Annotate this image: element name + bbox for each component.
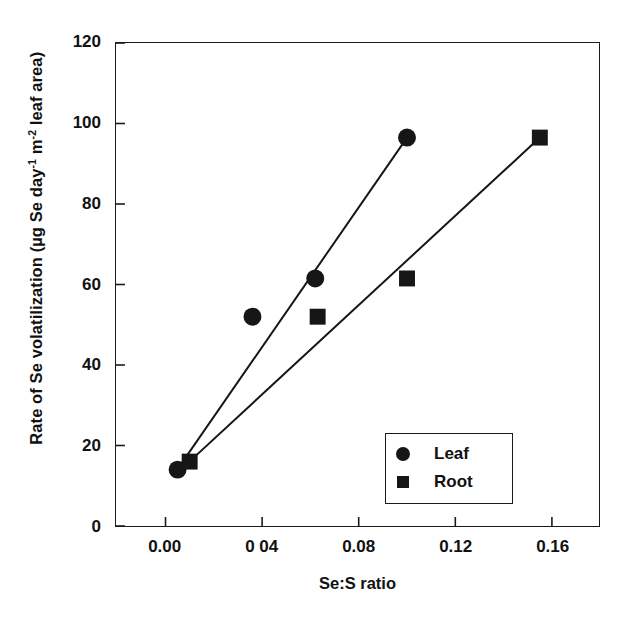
x-axis-tick-label: 0.16: [508, 537, 598, 557]
y-axis-tick-label: 120: [41, 32, 101, 52]
legend-square-marker-icon: [386, 476, 420, 488]
y-axis-title-sup-2: -2: [26, 130, 38, 140]
y-axis-tick-label: 20: [41, 436, 101, 456]
data-point-root: [399, 270, 415, 286]
x-axis-title: Se:S ratio: [115, 574, 600, 593]
y-axis-tick-labels: 020406080100120: [39, 0, 101, 626]
data-point-root: [182, 454, 198, 470]
x-axis-tick-label: 0.08: [314, 537, 404, 557]
data-point-root: [310, 309, 326, 325]
y-axis-tick-label: 100: [41, 113, 101, 133]
plot-area: [115, 42, 600, 527]
trend-line-leaf: [180, 138, 407, 466]
data-point-leaf: [306, 269, 324, 287]
data-point-leaf: [398, 129, 416, 147]
data-point-root: [532, 130, 548, 146]
y-axis-tick-label: 60: [41, 275, 101, 295]
y-axis-title-sup-1: -1: [26, 159, 38, 169]
y-axis-tick-label: 0: [41, 517, 101, 537]
legend-label-root: Root: [420, 472, 473, 492]
legend-item-leaf: Leaf: [386, 440, 514, 468]
x-axis-tick-label: 0.00: [120, 537, 210, 557]
data-point-leaf: [243, 308, 261, 326]
legend-item-root: Root: [386, 468, 514, 496]
legend-label-leaf: Leaf: [420, 444, 469, 464]
y-axis-tick-label: 80: [41, 194, 101, 214]
trend-line-root: [187, 138, 540, 464]
figure-scatter-se-volatilization: Rate of Se volatilization (µg Se day-1 m…: [0, 0, 629, 626]
legend-circle-marker-icon: [386, 447, 420, 461]
y-axis-tick-label: 40: [41, 355, 101, 375]
x-axis-tick-label: 0.12: [411, 537, 501, 557]
x-axis-tick-label: 0 04: [217, 537, 307, 557]
legend: Leaf Root: [385, 433, 513, 504]
plot-canvas: [116, 43, 599, 526]
x-axis-tick-labels: 0.000 040.080.120.16: [0, 537, 629, 567]
